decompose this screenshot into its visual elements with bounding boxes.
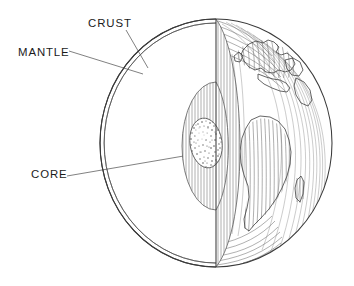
coastline-mediterranean — [258, 74, 290, 92]
label-mantle: MANTLE — [18, 46, 70, 58]
africa-hatch — [240, 108, 294, 238]
leader-line-mantle — [69, 51, 143, 74]
label-core: CORE — [31, 168, 68, 180]
globe-outline — [100, 19, 332, 267]
core-highlight — [195, 126, 207, 142]
africa-shading — [240, 108, 294, 238]
leader-line-crust — [126, 30, 148, 68]
label-crust: CRUST — [88, 17, 132, 29]
earth-diagram-canvas: CRUST MANTLE CORE — [0, 0, 354, 286]
earth-cutaway-figure: CRUST MANTLE CORE — [0, 0, 354, 286]
continent-europe-group — [234, 36, 312, 106]
